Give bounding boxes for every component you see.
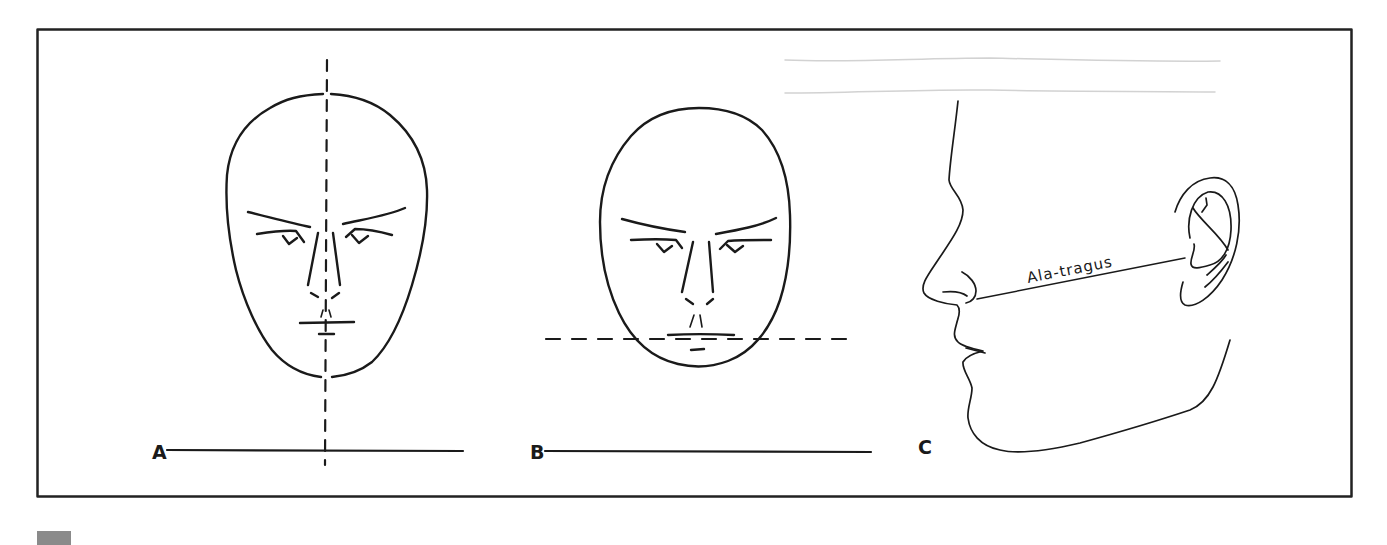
panel-a-nose-left <box>308 233 318 285</box>
figure: A B <box>0 0 1387 545</box>
panel-b-philtrum-right <box>700 315 702 327</box>
panel-c-ala-tragus-annotation: Ala-tragus <box>1025 253 1114 287</box>
panel-b-left-eyebrow <box>622 219 685 232</box>
panel-a-left-eye-lid <box>283 236 297 244</box>
panel-c-label: C <box>918 436 932 458</box>
panel-c-nostril-ala <box>943 272 976 303</box>
panel-a-philtrum-right <box>329 310 331 317</box>
panel-c-ear-antihelix <box>1193 208 1228 250</box>
panel-a-philtrum-left <box>321 310 323 317</box>
panel-a-baseline <box>167 450 463 451</box>
panel-a-head-outline <box>226 94 323 377</box>
panel-a-right-eyebrow <box>343 208 405 224</box>
faint-guide-line-top <box>785 58 1220 61</box>
panel-b-baseline <box>545 451 871 452</box>
panel-a-label: A <box>152 441 167 463</box>
panel-a-left-eye <box>257 231 304 242</box>
panel-b-right-eye-lid <box>727 245 743 252</box>
panel-b-nostril-right <box>707 299 713 304</box>
panel-a-right-eye-lid <box>352 235 368 243</box>
panel-a-drawing <box>167 60 463 465</box>
panel-a-left-eyebrow <box>248 212 310 227</box>
panel-b-label: B <box>530 441 544 463</box>
panel-b-head-outline-full <box>600 108 790 366</box>
panel-a-mouth <box>300 322 354 323</box>
panel-b-mouth <box>668 334 734 335</box>
panel-a-nose-right <box>333 233 340 285</box>
panel-b-drawing <box>545 108 871 452</box>
panel-b-nostril-left <box>686 299 693 304</box>
panel-b-philtrum-left <box>690 315 694 327</box>
panel-a-nostril-right <box>332 293 339 298</box>
panel-a-nostril-left <box>311 293 318 297</box>
faint-guide-line-second <box>785 90 1215 93</box>
panel-b-left-eye-lid <box>657 244 672 252</box>
page-corner-tab <box>37 531 71 545</box>
panel-b-nose-left <box>682 242 693 292</box>
panel-b-nose-right <box>709 242 713 292</box>
panel-c-ear-lobe-lines <box>1205 255 1228 287</box>
figure-drawing: A B <box>0 0 1387 545</box>
panel-a-head-outline-right <box>331 94 427 377</box>
panel-b-right-eyebrow <box>716 218 776 234</box>
panel-c-ear-crus <box>1202 198 1207 212</box>
panel-a-midline-dashed <box>325 60 327 465</box>
panel-b-lower-lip-mark <box>691 349 704 350</box>
